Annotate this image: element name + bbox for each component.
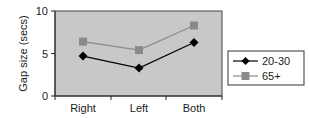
y-axis-title: Gap size (secs) — [17, 15, 29, 91]
legend-marker-square — [242, 72, 250, 80]
y-tick-label-10: 10 — [36, 5, 48, 17]
series-65-plus-marker — [135, 46, 143, 54]
x-tick-label-both: Both — [183, 102, 206, 114]
legend-label-20-30: 20-30 — [262, 55, 290, 67]
legend: 20-30 65+ — [228, 51, 304, 85]
legend-label-65-plus: 65+ — [262, 70, 281, 82]
y-tick-label-5: 5 — [42, 48, 48, 60]
series-65-plus-marker — [190, 22, 198, 30]
line-chart: 10 5 0 Gap size (secs) Right Left Both 2… — [0, 0, 309, 118]
y-tick-label-0: 0 — [42, 90, 48, 102]
x-tick-label-left: Left — [130, 102, 148, 114]
x-tick-label-right: Right — [70, 102, 96, 114]
series-65-plus-marker — [79, 38, 87, 46]
